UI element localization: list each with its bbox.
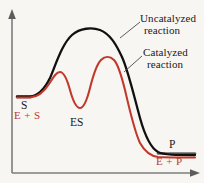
x-axis-arrowhead	[190, 169, 200, 177]
label-enzyme-product-complex: E + P	[156, 156, 183, 168]
callout-catalyzed-line1: Catalyzed	[143, 46, 188, 58]
uncatalyzed-leader-line	[120, 22, 140, 38]
callout-catalyzed: Catalyzed reaction	[143, 47, 188, 71]
callout-uncatalyzed-line1: Uncatalyzed	[140, 12, 196, 24]
callout-catalyzed-line2: reaction	[143, 59, 188, 71]
label-product: P	[169, 138, 175, 150]
label-es-complex: ES	[70, 116, 83, 128]
callout-uncatalyzed: Uncatalyzed reaction	[140, 13, 196, 37]
label-enzyme-substrate-reactants: E + S	[14, 110, 41, 122]
callout-uncatalyzed-line2: reaction	[140, 25, 196, 37]
catalyzed-leader-line	[124, 56, 142, 72]
leader-lines-group	[120, 22, 142, 72]
y-axis-arrowhead	[8, 9, 16, 19]
reaction-coordinate-figure: Uncatalyzed reaction Catalyzed reaction …	[0, 0, 204, 183]
